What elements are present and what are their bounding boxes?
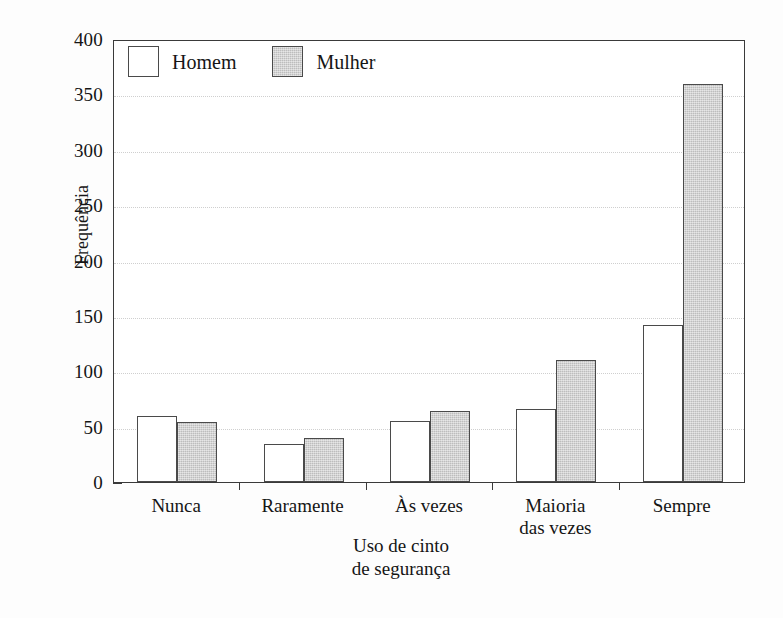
- y-tick-label-50: 50: [0, 418, 103, 437]
- chart-legend: Homem Mulher: [128, 46, 375, 77]
- y-tick-major-0: [113, 483, 122, 484]
- x-category-label-4: Sempre: [599, 495, 765, 517]
- y-tick-label-300: 300: [0, 141, 103, 160]
- y-tick-label-200: 200: [0, 252, 103, 271]
- bar-mulher-4: [683, 84, 723, 482]
- y-tick-label-350: 350: [0, 85, 103, 104]
- legend-label-homem: Homem: [172, 52, 236, 72]
- bar-homem-2: [390, 421, 430, 482]
- legend-entry-mulher: Mulher: [272, 46, 375, 77]
- plot-area: [113, 40, 745, 483]
- gridline-y-350: [114, 96, 744, 97]
- bar-mulher-2: [430, 411, 470, 482]
- y-tick-label-100: 100: [0, 362, 103, 381]
- gridline-y-200: [114, 263, 744, 264]
- x-tick-1: [239, 483, 240, 490]
- x-axis-title: Uso de cinto de segurança: [291, 534, 511, 580]
- bar-mulher-0: [177, 422, 217, 482]
- x-tick-4: [619, 483, 620, 490]
- y-tick-label-400: 400: [0, 30, 103, 49]
- y-tick-label-250: 250: [0, 196, 103, 215]
- gridline-y-250: [114, 207, 744, 208]
- bar-mulher-1: [304, 438, 344, 482]
- gridline-y-300: [114, 152, 744, 153]
- x-tick-3: [492, 483, 493, 490]
- legend-entry-homem: Homem: [128, 46, 236, 77]
- y-tick-label-150: 150: [0, 307, 103, 326]
- bar-homem-1: [264, 444, 304, 482]
- y-tick-label-0: 0: [0, 473, 103, 492]
- bar-homem-4: [643, 325, 683, 482]
- bar-chart-figure: Frequência 050100150200250300350400 Nunc…: [0, 0, 783, 618]
- legend-swatch-mulher-icon: [272, 46, 303, 77]
- bar-mulher-3: [556, 360, 596, 482]
- bar-homem-3: [516, 409, 556, 482]
- gridline-y-150: [114, 318, 744, 319]
- y-axis-title: Frequência: [72, 135, 92, 315]
- legend-label-mulher: Mulher: [316, 52, 375, 72]
- x-tick-2: [366, 483, 367, 490]
- legend-swatch-homem-icon: [128, 46, 159, 77]
- bar-homem-0: [137, 416, 177, 482]
